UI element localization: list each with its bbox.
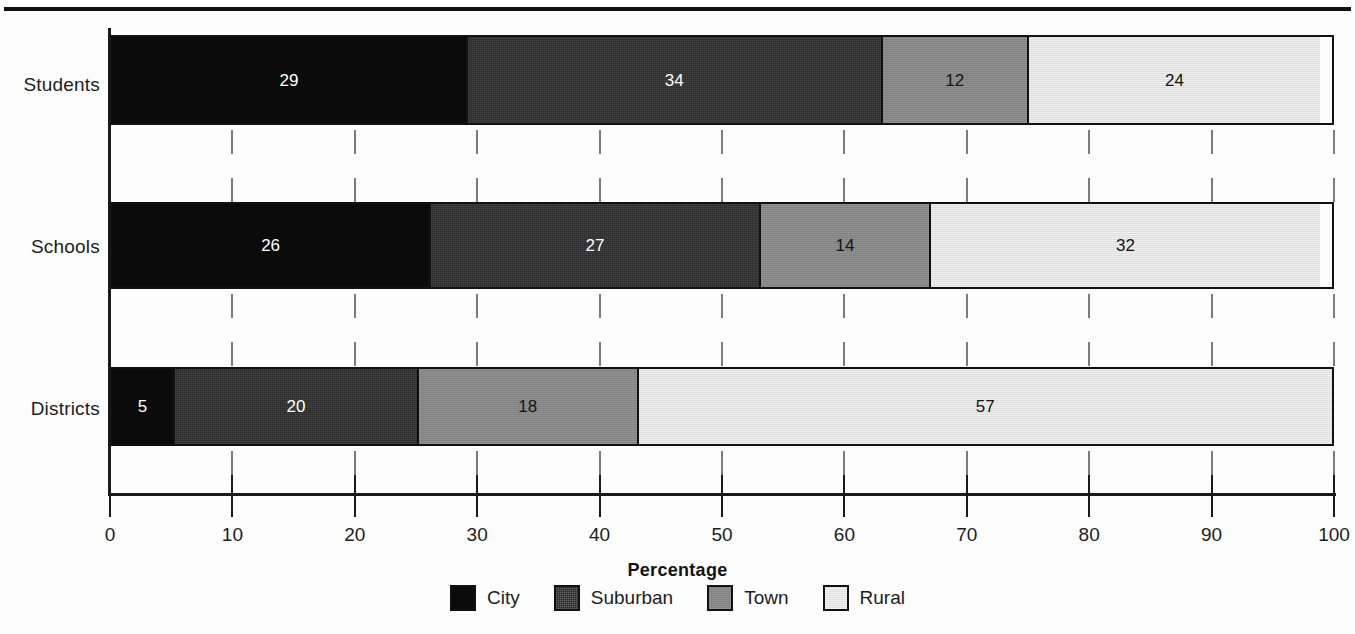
bar-segment-districts-rural: 57: [637, 369, 1332, 444]
interior-tick-stub: [599, 451, 601, 475]
legend-swatch-icon: [823, 585, 849, 611]
interior-tick-stub: [1088, 451, 1090, 475]
chart-legend: CitySuburbanTownRural: [0, 585, 1355, 611]
top-rule-divider: [4, 7, 1351, 11]
interior-tick-stub: [1333, 294, 1335, 318]
legend-swatch-icon: [707, 585, 733, 611]
x-axis-title: Percentage: [0, 560, 1355, 581]
x-axis-tick: [599, 470, 601, 517]
bar-row-districts: 5 20 18 57: [110, 367, 1334, 446]
legend-swatch-icon: [554, 585, 580, 611]
x-axis-tick-label: 90: [1201, 524, 1222, 546]
interior-tick-stub: [476, 294, 478, 318]
x-axis-tick: [109, 470, 111, 517]
interior-tick-stub: [966, 294, 968, 318]
bar-row-students: 29 34 12 24: [110, 35, 1334, 125]
interior-tick-stub: [231, 451, 233, 475]
category-label-districts: Districts: [31, 398, 100, 420]
bar-segment-districts-town: 18: [417, 369, 637, 444]
interior-tick-stub: [1333, 342, 1335, 366]
interior-tick-stub: [231, 178, 233, 202]
interior-tick-stub: [599, 178, 601, 202]
x-axis-tick-label: 50: [711, 524, 732, 546]
x-axis-tick: [1088, 470, 1090, 517]
interior-tick-stub: [1088, 294, 1090, 318]
interior-tick-stub: [843, 342, 845, 366]
interior-tick-stub: [1211, 178, 1213, 202]
legend-label: Suburban: [591, 587, 673, 609]
interior-tick-stub: [476, 130, 478, 154]
x-axis-tick-label: 60: [834, 524, 855, 546]
x-axis-tick-label: 10: [222, 524, 243, 546]
x-axis-tick: [354, 470, 356, 517]
x-axis-tick: [843, 470, 845, 517]
x-axis-tick-label: 70: [956, 524, 977, 546]
interior-tick-stub: [231, 130, 233, 154]
interior-tick-stub: [231, 294, 233, 318]
category-label-students: Students: [23, 74, 100, 96]
bar-segment-students-town: 12: [881, 37, 1027, 123]
interior-tick-stub: [843, 294, 845, 318]
interior-tick-stub: [966, 451, 968, 475]
chart-figure: Students Schools Districts 29 34 12 24 2…: [0, 0, 1355, 634]
interior-tick-stub: [843, 451, 845, 475]
interior-tick-stub: [1333, 130, 1335, 154]
interior-tick-stub: [354, 130, 356, 154]
interior-tick-stub: [1211, 451, 1213, 475]
interior-tick-stub: [1211, 294, 1213, 318]
interior-tick-stub: [843, 130, 845, 154]
interior-tick-stub: [1088, 130, 1090, 154]
bar-segment-students-rural: 24: [1027, 37, 1320, 123]
category-label-schools: Schools: [31, 236, 100, 258]
x-axis-tick: [231, 470, 233, 517]
interior-tick-stub: [721, 451, 723, 475]
legend-label: Rural: [860, 587, 905, 609]
interior-tick-stub: [354, 178, 356, 202]
x-axis-tick-label: 0: [105, 524, 116, 546]
interior-tick-stub: [966, 342, 968, 366]
legend-label: City: [487, 587, 520, 609]
legend-swatch-icon: [450, 585, 476, 611]
interior-tick-stub: [1088, 342, 1090, 366]
interior-tick-stub: [1333, 451, 1335, 475]
x-axis-tick-label: 20: [344, 524, 365, 546]
x-axis-tick: [1211, 470, 1213, 517]
interior-tick-stub: [599, 294, 601, 318]
interior-tick-stub: [721, 178, 723, 202]
interior-tick-stub: [1333, 178, 1335, 202]
legend-label: Town: [744, 587, 788, 609]
interior-tick-stub: [476, 178, 478, 202]
interior-tick-stub: [476, 342, 478, 366]
bar-segment-schools-city: 26: [112, 204, 429, 287]
bar-segment-students-city: 29: [112, 37, 466, 123]
interior-tick-stub: [721, 130, 723, 154]
interior-tick-stub: [354, 294, 356, 318]
interior-tick-stub: [1211, 130, 1213, 154]
x-axis-tick: [966, 470, 968, 517]
interior-tick-stub: [599, 130, 601, 154]
interior-tick-stub: [1088, 178, 1090, 202]
interior-tick-stub: [354, 342, 356, 366]
legend-item-rural[interactable]: Rural: [823, 585, 905, 611]
bar-row-schools: 26 27 14 32: [110, 202, 1334, 289]
bar-segment-students-suburban: 34: [466, 37, 881, 123]
bar-segment-schools-rural: 32: [929, 204, 1319, 287]
interior-tick-stub: [966, 178, 968, 202]
bar-segment-districts-city: 5: [112, 369, 173, 444]
x-axis-tick-label: 30: [467, 524, 488, 546]
legend-item-suburban[interactable]: Suburban: [554, 585, 673, 611]
x-axis-tick: [1333, 470, 1335, 517]
x-axis-tick-label: 80: [1079, 524, 1100, 546]
bar-segment-schools-town: 14: [759, 204, 930, 287]
legend-item-town[interactable]: Town: [707, 585, 788, 611]
legend-item-city[interactable]: City: [450, 585, 520, 611]
interior-tick-stub: [966, 130, 968, 154]
interior-tick-stub: [721, 342, 723, 366]
bar-segment-schools-suburban: 27: [429, 204, 758, 287]
interior-tick-stub: [231, 342, 233, 366]
x-axis-tick-label: 100: [1318, 524, 1350, 546]
x-axis-tick-label: 40: [589, 524, 610, 546]
interior-tick-stub: [1211, 342, 1213, 366]
interior-tick-stub: [721, 294, 723, 318]
interior-tick-stub: [476, 451, 478, 475]
